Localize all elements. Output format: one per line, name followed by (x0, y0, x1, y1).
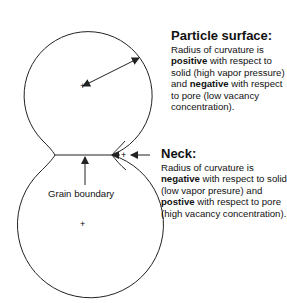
particle-surface-title: Particle surface: (171, 28, 287, 43)
particle-surface-label: Particle surface: Radius of curvature is… (171, 28, 287, 112)
center-marker-lower: + (80, 219, 85, 229)
particle-outline (17, 32, 163, 298)
neck-center-marker: + (121, 150, 126, 160)
neck-title: Neck: (161, 146, 287, 161)
grain-boundary-label: Grain boundary (48, 188, 114, 199)
neck-label: Neck: Radius of curvature is negative wi… (161, 146, 287, 219)
radius-arrow (83, 58, 139, 86)
center-marker-upper: + (80, 81, 85, 91)
